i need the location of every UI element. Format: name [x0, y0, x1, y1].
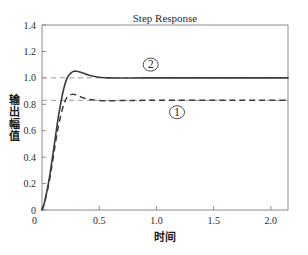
y-tick-label: 1.2 [24, 46, 37, 57]
chart-canvas: Step Response 00.20.40.60.81.01.21.4 00.… [0, 0, 308, 255]
annotation-number: 1 [174, 105, 180, 119]
data-curves [42, 71, 288, 210]
y-axis-label-char: 出 [9, 105, 20, 119]
annotation-number: 2 [148, 57, 154, 71]
y-tick-label: 0.2 [24, 178, 37, 189]
y-tick-label: 0.6 [24, 125, 37, 136]
y-axis-label: 输出幅值 [9, 93, 21, 143]
chart-title: Step Response [133, 12, 198, 24]
curve-series-2 [42, 71, 288, 210]
curve-annotations: 12 [143, 57, 184, 119]
y-tick-label: 1.4 [24, 20, 37, 31]
x-axis-ticks: 00.51.01.52.0 [32, 206, 277, 226]
plot-frame [42, 25, 288, 210]
x-tick-label: 2.0 [265, 215, 278, 226]
curve-series-1 [42, 94, 288, 210]
x-tick-label: 1.5 [207, 215, 220, 226]
y-tick-label: 1.0 [24, 72, 37, 83]
x-axis-label: 时间 [154, 230, 176, 244]
x-tick-label: 0.5 [93, 215, 106, 226]
annotation-curve-2-solid: 2 [143, 57, 158, 71]
y-tick-label: 0 [31, 205, 36, 216]
y-tick-label: 0.4 [24, 152, 37, 163]
y-tick-label: 0.8 [24, 99, 37, 110]
reference-lines [42, 78, 288, 100]
y-axis-label-char: 幅 [9, 117, 20, 131]
y-axis-ticks: 00.20.40.60.81.01.21.4 [24, 20, 47, 216]
step-response-figure: Step Response 00.20.40.60.81.01.21.4 00.… [0, 0, 308, 255]
y-axis-label-char: 输 [9, 93, 21, 107]
x-tick-label: 0 [32, 215, 37, 226]
y-axis-label-char: 值 [9, 129, 20, 143]
annotation-curve-1-dashed: 1 [170, 105, 185, 119]
x-tick-label: 1.0 [150, 215, 163, 226]
